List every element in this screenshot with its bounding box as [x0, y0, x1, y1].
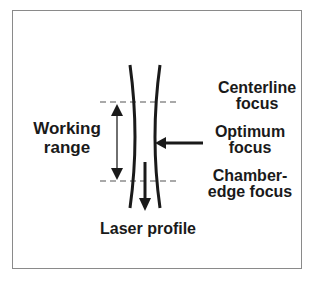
optimum-focus-label: Optimum focus	[200, 124, 300, 156]
working-range-label: Working range	[26, 119, 108, 157]
beam-right-edge	[155, 65, 160, 208]
laser-profile-label: Laser profile	[78, 221, 218, 237]
chamber-edge-focus-label: Chamber- edge focus	[195, 168, 305, 200]
laser-direction-arrow-icon	[139, 162, 151, 211]
working-range-double-arrow-icon	[111, 104, 123, 180]
optimum-focus-arrow-icon	[155, 137, 203, 149]
beam-left-edge	[130, 65, 135, 208]
centerline-focus-label: Centerline focus	[212, 80, 302, 112]
